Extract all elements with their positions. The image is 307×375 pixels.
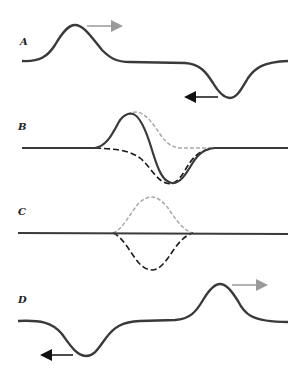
wave-a <box>22 25 288 98</box>
wave-d <box>18 284 288 356</box>
panel-d: D <box>17 284 288 356</box>
panel-c: C <box>18 197 288 270</box>
panel-label-d: D <box>17 294 27 305</box>
panel-label-a: A <box>19 36 28 47</box>
panel-label-c: C <box>18 206 26 217</box>
panel-label-b: B <box>17 121 26 132</box>
gray-dashed-pulse-c <box>113 197 193 233</box>
panel-a: A <box>19 25 288 98</box>
panel-b: B <box>17 112 288 184</box>
black-dashed-pulse-c <box>113 233 193 270</box>
wave-b <box>22 114 288 183</box>
wave-diagram: A B C D <box>0 0 307 375</box>
wave-c <box>18 233 288 234</box>
